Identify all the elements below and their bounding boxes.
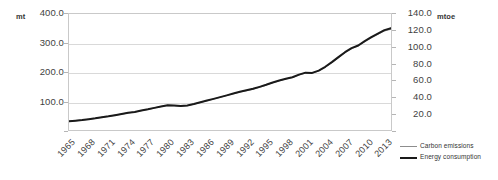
left-axis-tick-label: 200.0 [28,66,64,77]
right-axis-tick-label: 20.0 [398,108,432,119]
right-axis-tick-label: 40.0 [398,91,432,102]
axis-tickmark [392,30,396,31]
plot-area [68,13,392,131]
legend-item-label: Carbon emissions [420,143,474,150]
left-axis-tick-label: 400.0 [28,7,64,18]
right-axis-tick-label: 140.0 [398,7,432,18]
legend-item-label: Energy consumption [420,154,481,161]
axis-tickmark [392,47,396,48]
legend-line-icon [400,146,417,147]
series-line [69,28,391,121]
right-axis-unit-label: mtoe [437,12,455,21]
axis-tickmark [392,97,396,98]
right-axis-tick-label: 100.0 [398,41,432,52]
axis-tickmark [392,131,396,132]
axis-tickmark [392,80,396,81]
axis-tickmark [392,64,396,65]
legend-item: Energy consumption [400,152,481,163]
legend-line-icon [400,157,417,159]
chart-legend: Carbon emissionsEnergy consumption [400,141,481,163]
series-line [69,29,391,121]
series-lines [69,14,391,130]
chart-container: mt mtoe 400.0300.0200.0100.0 140.0120.01… [0,0,498,180]
left-axis-tick-label: 100.0 [28,96,64,107]
right-axis-tick-label: 120.0 [398,24,432,35]
left-axis-unit-label: mt [16,12,25,21]
right-axis-tick-label: 80.0 [398,58,432,69]
right-axis-tick-label: 60.0 [398,74,432,85]
legend-item: Carbon emissions [400,141,481,152]
axis-tickmark [64,131,68,132]
axis-tickmark [392,13,396,14]
left-axis-tick-label: 300.0 [28,37,64,48]
axis-tickmark [392,114,396,115]
